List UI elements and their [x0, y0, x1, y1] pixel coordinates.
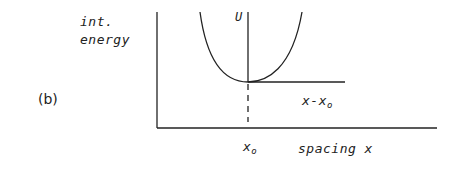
- displacement-label: x-xo: [302, 93, 333, 110]
- y-axis-label-line2: energy: [80, 32, 130, 47]
- curve-label-u: U: [235, 10, 243, 24]
- displacement-label-base: x-x: [302, 93, 327, 108]
- energy-diagram: [0, 0, 459, 174]
- y-axis-label-line1: int.: [80, 14, 113, 29]
- equilibrium-label-subscript: o: [251, 146, 257, 156]
- potential-energy-parabola: [200, 12, 302, 82]
- x-axis-label: spacing x: [298, 141, 373, 156]
- equilibrium-label: xo: [243, 139, 257, 156]
- displacement-label-subscript: o: [327, 100, 333, 110]
- panel-label: (b): [38, 91, 58, 107]
